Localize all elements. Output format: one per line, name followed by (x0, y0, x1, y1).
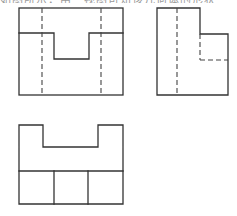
side-view (157, 8, 228, 95)
three-view-drawing (0, 0, 237, 216)
front-view-outline (19, 8, 123, 95)
top-view (19, 125, 123, 204)
front-view-notch-edge (19, 33, 123, 59)
top-view-outline (19, 125, 123, 204)
side-view-outline (157, 8, 228, 95)
front-view (19, 8, 123, 95)
